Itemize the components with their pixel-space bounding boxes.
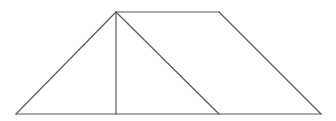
segment-diagonal — [116, 12, 219, 114]
segment-left-side — [16, 12, 116, 114]
geometry-diagram — [0, 0, 336, 121]
segment-right-side — [219, 12, 321, 114]
trapezoid-figure — [0, 0, 336, 121]
